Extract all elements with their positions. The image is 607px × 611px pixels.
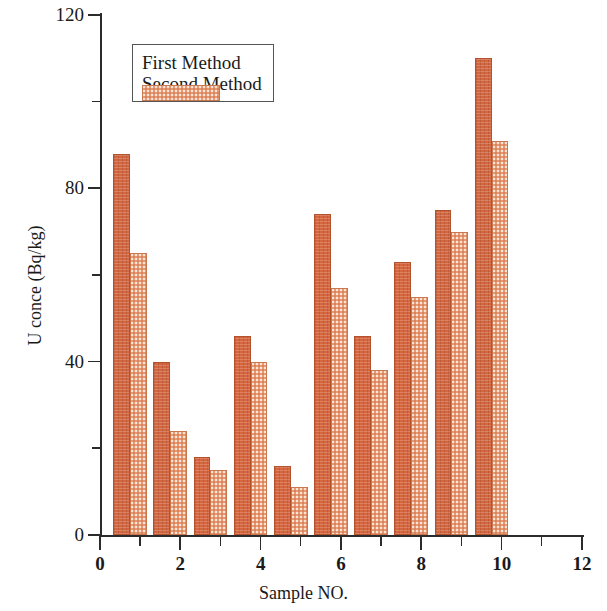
x-tick-label: 2 (160, 554, 200, 573)
y-tick-label: 120 (42, 5, 84, 24)
bar-second-method-sample-6 (331, 288, 348, 535)
y-axis-title: U conce (Bq/kg) (25, 156, 46, 416)
bar-first-method-sample-1 (113, 154, 130, 535)
bar-second-method-sample-1 (130, 253, 147, 535)
x-tick-label: 8 (401, 554, 441, 573)
x-tick-major (179, 537, 181, 550)
bar-second-method-sample-4 (251, 362, 268, 535)
x-tick-major (99, 537, 101, 550)
bar-chart: 04080120 024681012 U conce (Bq/kg) Sampl… (0, 0, 607, 611)
y-tick-label: 80 (42, 178, 84, 197)
bar-second-method-sample-10 (492, 141, 509, 535)
legend-item-first-method: First Method (142, 52, 262, 73)
x-tick-minor (220, 537, 222, 546)
bar-first-method-sample-3 (194, 457, 211, 535)
y-tick-major (88, 187, 100, 189)
bar-first-method-sample-6 (314, 214, 331, 535)
x-tick-minor (300, 537, 302, 546)
y-tick-major (88, 361, 100, 363)
bar-first-method-sample-2 (153, 362, 170, 535)
bar-first-method-sample-8 (394, 262, 411, 535)
y-tick-minor (92, 101, 100, 103)
bar-second-method-sample-7 (371, 370, 388, 535)
x-tick-major (260, 537, 262, 550)
x-tick-major (501, 537, 503, 550)
x-axis-title: Sample NO. (0, 583, 607, 604)
bar-first-method-sample-10 (475, 58, 492, 535)
legend-swatch-second-method (142, 85, 220, 101)
bar-second-method-sample-5 (291, 487, 308, 535)
legend-label-first-method: First Method (142, 53, 241, 72)
bar-first-method-sample-7 (354, 336, 371, 535)
y-tick-major (88, 534, 100, 536)
x-tick-minor (139, 537, 141, 546)
x-axis-line (99, 535, 584, 537)
y-tick-major (88, 14, 100, 16)
x-tick-label: 10 (482, 554, 522, 573)
y-tick-label: 40 (42, 352, 84, 371)
bar-first-method-sample-5 (274, 466, 291, 535)
x-tick-minor (380, 537, 382, 546)
x-tick-label: 6 (321, 554, 361, 573)
x-tick-minor (541, 537, 543, 546)
y-tick-minor (92, 274, 100, 276)
x-tick-label: 4 (241, 554, 281, 573)
y-tick-label: 0 (42, 525, 84, 544)
x-tick-minor (461, 537, 463, 546)
bar-second-method-sample-9 (451, 232, 468, 535)
y-tick-minor (92, 447, 100, 449)
x-tick-label: 0 (80, 554, 120, 573)
bar-second-method-sample-8 (411, 297, 428, 535)
bar-first-method-sample-4 (234, 336, 251, 535)
x-tick-major (581, 537, 583, 550)
bar-second-method-sample-2 (170, 431, 187, 535)
x-tick-major (340, 537, 342, 550)
legend-item-second-method: Second Method (142, 73, 262, 94)
x-tick-major (420, 537, 422, 550)
x-tick-label: 12 (562, 554, 602, 573)
bar-first-method-sample-9 (435, 210, 452, 535)
bar-second-method-sample-3 (210, 470, 227, 535)
legend: First Method Second Method (132, 44, 274, 102)
